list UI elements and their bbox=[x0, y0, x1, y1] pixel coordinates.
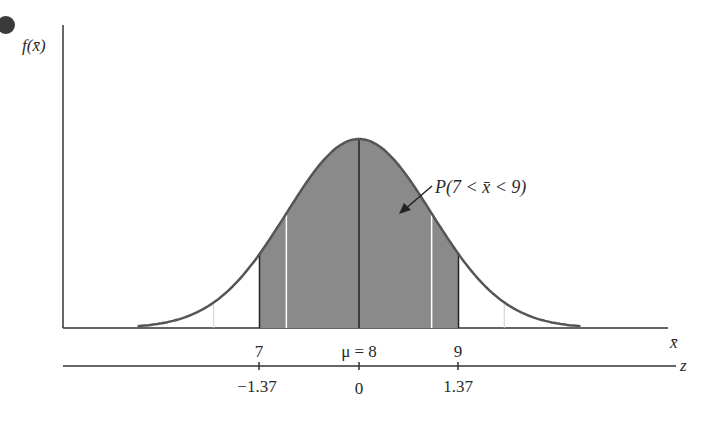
x-tick-9: 9 bbox=[454, 342, 463, 361]
probability-annotation: P(7 < x̄ < 9) bbox=[434, 177, 526, 198]
normal-distribution-chart: f(x̄) P(7 < x̄ < 9) 7 μ = 8 9 x̄ z −1.37… bbox=[0, 0, 722, 424]
x-tick-mean: μ = 8 bbox=[341, 342, 377, 361]
x-bar-axis-label: x̄ bbox=[669, 333, 678, 352]
y-axis-label: f(x̄) bbox=[22, 36, 46, 55]
z-tick-0: 0 bbox=[355, 379, 364, 398]
z-axis-label: z bbox=[679, 356, 687, 375]
bullet-dot bbox=[0, 16, 15, 34]
x-tick-7: 7 bbox=[255, 342, 264, 361]
z-tick-pos: 1.37 bbox=[443, 377, 473, 396]
z-tick-neg: −1.37 bbox=[237, 377, 277, 396]
